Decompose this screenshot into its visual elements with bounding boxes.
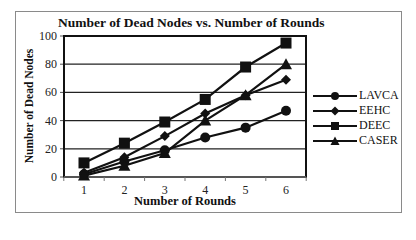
svg-text:3: 3 [162, 183, 168, 197]
legend-item-eehc: EEHC [313, 103, 399, 118]
svg-text:4: 4 [202, 183, 208, 197]
legend-label: LAVCA [359, 88, 399, 103]
svg-text:5: 5 [243, 183, 249, 197]
legend: LAVCA EEHC DEEC CASER [313, 88, 399, 148]
svg-text:0: 0 [51, 170, 57, 184]
svg-text:6: 6 [283, 183, 289, 197]
svg-text:100: 100 [39, 29, 57, 43]
legend-label: EEHC [359, 103, 390, 118]
triangle-marker-icon [313, 135, 357, 147]
svg-text:20: 20 [45, 142, 57, 156]
legend-item-caser: CASER [313, 133, 399, 148]
svg-text:2: 2 [121, 183, 127, 197]
svg-text:1: 1 [81, 183, 87, 197]
svg-text:60: 60 [45, 85, 57, 99]
legend-label: DEEC [359, 118, 390, 133]
legend-item-deec: DEEC [313, 118, 399, 133]
svg-text:40: 40 [45, 114, 57, 128]
legend-item-lavca: LAVCA [313, 88, 399, 103]
svg-text:80: 80 [45, 57, 57, 71]
legend-label: CASER [359, 133, 398, 148]
square-marker-icon [313, 120, 357, 132]
diamond-marker-icon [313, 105, 357, 117]
circle-marker-icon [313, 90, 357, 102]
